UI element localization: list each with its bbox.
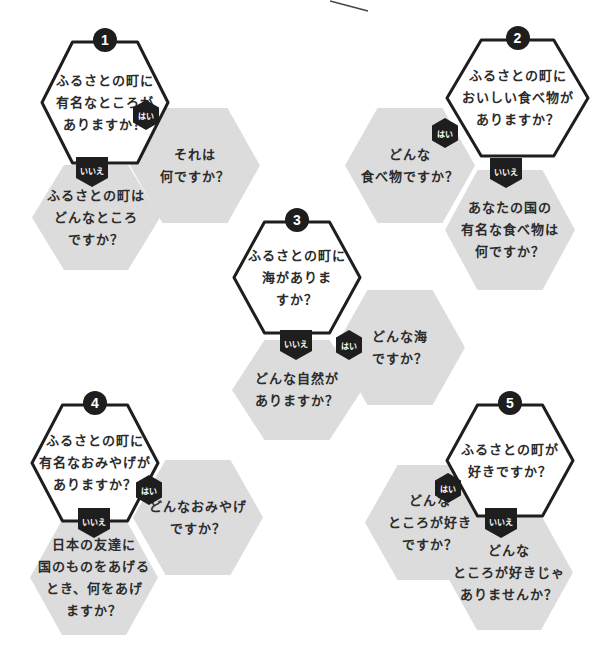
no-label: いいえ	[490, 166, 522, 177]
question-hex-line: すか？	[276, 289, 318, 311]
yes-badge: はい	[133, 100, 159, 130]
question-hex-line: ありますか？	[476, 109, 560, 131]
question-hex-line: 好きですか？	[468, 461, 552, 483]
question-hex-line: 海がありま	[262, 267, 332, 289]
no-label: いいえ	[280, 338, 312, 349]
yes-label: はい	[435, 483, 461, 494]
no-answer-hex-line: ですか？	[68, 229, 124, 251]
yes-answer-hex-line: どんなおみやげ	[149, 496, 247, 518]
question-hex: ふるさとの町が好きですか？	[445, 403, 575, 518]
question-hex-line: おいしい食べ物が	[462, 87, 574, 109]
yes-answer-hex-line: ですか？	[372, 348, 428, 370]
question-hex-text: ふるさとの町に有名なおみやげがありますか？	[30, 403, 160, 523]
yes-label: はい	[336, 340, 362, 351]
no-badge: いいえ	[490, 158, 522, 188]
yes-label: はい	[136, 485, 162, 496]
step-number-badge: 1	[93, 28, 117, 52]
question-hex-line: 有名なおみやげが	[39, 452, 151, 474]
no-answer-hex-line: ありませんか？	[460, 584, 558, 606]
no-answer-hex-line: あなたの国の	[468, 197, 552, 219]
question-hex-line: ありますか？	[53, 474, 137, 496]
yes-answer-hex-line: どんな海	[372, 326, 428, 348]
question-hex-line: ふるさとの町に	[469, 65, 567, 87]
yes-badge: はい	[432, 118, 458, 148]
no-label: いいえ	[76, 165, 108, 176]
yes-answer-hex-line: ですか？	[170, 518, 226, 540]
no-badge: いいえ	[280, 330, 312, 360]
yes-answer-hex-line: それは	[174, 144, 216, 166]
no-answer-hex-line: どんなところ	[54, 207, 138, 229]
no-answer-hex-line: 国のものをあげる	[38, 556, 150, 578]
yes-badge: はい	[435, 473, 461, 503]
step-number-badge: 4	[83, 391, 107, 415]
question-hex-text: ふるさとの町においしい食べ物がありますか？	[445, 38, 590, 158]
no-answer-hex-line: ますか？	[66, 600, 122, 622]
step-number-badge: 3	[285, 208, 309, 232]
question-hex: ふるさとの町においしい食べ物がありますか？	[445, 38, 590, 158]
no-label: いいえ	[485, 516, 517, 527]
no-badge: いいえ	[76, 157, 108, 187]
no-answer-hex-line: ふるさとの町は	[47, 185, 145, 207]
no-answer-hex-line: 有名な食べ物は	[461, 219, 559, 241]
no-answer-hex-line: ところが好きじゃ	[453, 562, 565, 584]
yes-answer-hex-line: どんな	[389, 144, 431, 166]
no-answer-hex-line: とき、何をあげ	[46, 578, 143, 600]
question-hex-line: ふるさとの町に	[46, 430, 144, 452]
question-hex: ふるさとの町に海がありますか？	[232, 220, 362, 335]
no-answer-hex-line: 何ですか？	[475, 241, 545, 263]
question-hex-line: ふるさとの町に	[248, 245, 346, 267]
question-hex-line: ふるさとの町が	[461, 439, 559, 461]
no-answer-hex: あなたの国の有名な食べ物は何ですか？	[445, 170, 575, 290]
yes-answer-hex-line: 何ですか？	[160, 166, 230, 188]
yes-label: はい	[432, 128, 458, 139]
yes-badge: はい	[136, 475, 162, 505]
decorative-line	[330, 0, 370, 12]
no-answer-hex-line: どんな	[488, 540, 530, 562]
question-hex-text: ふるさとの町が好きですか？	[445, 403, 575, 518]
question-hex: ふるさとの町に有名なおみやげがありますか？	[30, 403, 160, 523]
no-answer-hex-line: ありますか？	[255, 390, 339, 412]
no-label: いいえ	[78, 516, 110, 527]
no-badge: いいえ	[78, 508, 110, 538]
step-number-badge: 5	[498, 391, 522, 415]
no-answer-hex-line: どんな自然が	[255, 368, 339, 390]
no-answer-hex-text: あなたの国の有名な食べ物は何ですか？	[445, 170, 575, 290]
yes-label: はい	[133, 110, 159, 121]
no-badge: いいえ	[485, 508, 517, 538]
question-hex-text: ふるさとの町に海がありますか？	[232, 220, 362, 335]
question-hex-line: ふるさとの町に	[56, 70, 154, 92]
yes-badge: はい	[336, 330, 362, 360]
step-number-badge: 2	[506, 26, 530, 50]
